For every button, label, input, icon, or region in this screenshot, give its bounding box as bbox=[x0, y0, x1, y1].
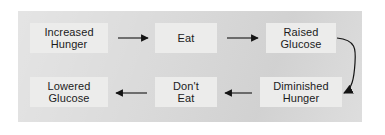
node-dont-eat-line1: Don't bbox=[173, 80, 199, 93]
node-raised-glucose-line1: Raised bbox=[280, 26, 321, 39]
node-lowered-glucose: Lowered Glucose bbox=[30, 77, 108, 107]
node-dont-eat: Don't Eat bbox=[155, 77, 217, 107]
node-increased-hunger-line2: Hunger bbox=[44, 38, 93, 51]
node-diminished-hunger: Diminished Hunger bbox=[260, 77, 342, 107]
node-lowered-glucose-line1: Lowered bbox=[48, 80, 91, 93]
node-raised-glucose-line2: Glucose bbox=[280, 38, 321, 51]
node-diminished-hunger-line1: Diminished bbox=[273, 80, 328, 93]
node-eat: Eat bbox=[155, 23, 217, 53]
node-increased-hunger: Increased Hunger bbox=[30, 23, 108, 53]
node-dont-eat-line2: Eat bbox=[173, 92, 199, 105]
node-raised-glucose: Raised Glucose bbox=[266, 23, 336, 53]
node-eat-line1: Eat bbox=[178, 32, 195, 45]
node-increased-hunger-line1: Increased bbox=[44, 26, 93, 39]
node-lowered-glucose-line2: Glucose bbox=[48, 92, 91, 105]
flowchart-panel: Increased Hunger Eat Raised Glucose Dimi… bbox=[18, 11, 362, 122]
node-diminished-hunger-line2: Hunger bbox=[273, 92, 328, 105]
